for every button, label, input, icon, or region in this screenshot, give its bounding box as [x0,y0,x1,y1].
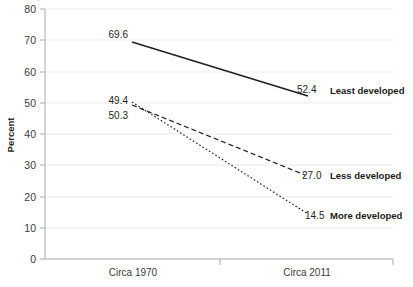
legend-label-more-developed: More developed [330,210,403,221]
point-label-less-developed-1970: 49.4 [109,95,129,106]
y-axis-title: Percent [5,117,16,153]
y-tick-label-10: 10 [24,222,36,234]
gridlines [45,9,393,228]
point-label-least-developed-2011: 52.4 [297,84,317,95]
y-tick-label-0: 0 [30,253,36,265]
legend-label-less-developed: Less developed [330,170,401,181]
point-label-less-developed-2011: 27.0 [302,170,322,181]
chart-canvas: 80 70 60 50 40 30 20 10 0 Percent Circa … [0,0,413,287]
line-chart: 80 70 60 50 40 30 20 10 0 Percent Circa … [0,0,413,287]
point-label-more-developed-2011: 14.5 [305,210,325,221]
x-tick-label-circa-1970: Circa 1970 [109,267,158,278]
point-label-least-developed-1970: 69.6 [109,29,129,40]
y-tick-label-20: 20 [24,191,36,203]
y-tick-label-30: 30 [24,159,36,171]
y-tick-label-40: 40 [24,128,36,140]
y-tick-label-50: 50 [24,97,36,109]
point-label-more-developed-1970: 50.3 [109,110,129,121]
series-line-least-developed [132,42,308,96]
y-tick-label-60: 60 [24,66,36,78]
legend-label-least-developed: Least developed [330,85,405,96]
x-tick-marks [220,259,393,265]
y-tick-label-80: 80 [24,3,36,15]
x-tick-label-circa-2011: Circa 2011 [283,267,331,278]
y-tick-marks [40,9,45,259]
y-tick-label-70: 70 [24,34,36,46]
